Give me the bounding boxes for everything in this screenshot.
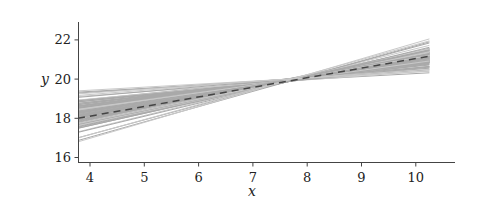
x-tick-label: 9 [357,170,365,185]
sample-lines-group [78,39,429,142]
y-axis-label: y [40,71,50,87]
x-tick-label: 4 [86,170,94,185]
y-tick-label: 22 [54,32,71,47]
x-axis-label: x [248,183,256,199]
x-axis-ticks: 45678910 [86,163,424,186]
x-tick-label: 5 [140,170,148,185]
sample-regression-line [78,61,429,109]
y-tick-label: 20 [54,72,71,87]
x-tick-label: 6 [194,170,202,185]
y-tick-label: 16 [54,150,71,165]
sample-regression-line [78,58,429,115]
regression-lines-chart: 45678910 16182022 x y [0,0,485,217]
x-tick-label: 8 [303,170,311,185]
y-axis-ticks: 16182022 [54,32,78,165]
x-tick-label: 10 [408,170,425,185]
y-tick-label: 18 [54,111,71,126]
